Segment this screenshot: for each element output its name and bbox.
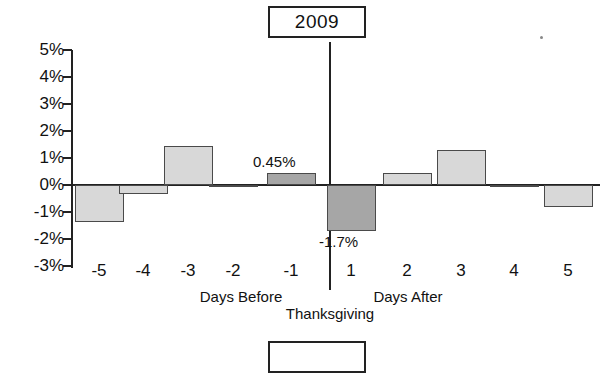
y-axis-tick xyxy=(63,49,72,51)
y-axis-tick-label: 0% xyxy=(8,176,64,193)
y-axis-tick-label: 3% xyxy=(8,95,64,112)
bar-4 xyxy=(490,185,539,187)
bar-1 xyxy=(327,185,376,231)
y-axis-tick-label: -3% xyxy=(8,257,64,274)
x-axis-tick-label-5: 5 xyxy=(548,262,588,280)
y-axis-tick-label: 5% xyxy=(8,41,64,58)
bar-3 xyxy=(437,150,486,185)
speck-artifact xyxy=(540,36,543,39)
x-axis-group-label-before: Days Before xyxy=(166,289,316,305)
bar-neg1 xyxy=(267,173,316,185)
y-axis-tick-label: -2% xyxy=(8,230,64,247)
y-axis-tick-label: 4% xyxy=(8,68,64,85)
x-axis-tick-label-neg2: -2 xyxy=(213,262,253,280)
bar-neg5 xyxy=(75,185,124,222)
bar-5 xyxy=(544,185,593,207)
x-axis-tick-label-3: 3 xyxy=(441,262,481,280)
center-divider-line xyxy=(329,42,331,290)
bar-value-label-neg1: 0.45% xyxy=(253,154,296,169)
bar-neg4 xyxy=(119,185,168,194)
y-axis-tick xyxy=(63,265,72,267)
next-chart-title-box xyxy=(268,341,366,373)
bar-2 xyxy=(383,173,432,185)
x-axis-tick-label-4: 4 xyxy=(494,262,534,280)
x-axis-tick-label-2: 2 xyxy=(387,262,427,280)
x-axis-group-label-after: Days After xyxy=(333,289,483,305)
y-axis-tick xyxy=(63,238,72,240)
y-axis-tick-label: -1% xyxy=(8,203,64,220)
x-axis-tick-label-neg5: -5 xyxy=(79,262,119,280)
x-axis-tick-label-neg1: -1 xyxy=(271,262,311,280)
chart-title: 2009 xyxy=(295,11,339,33)
y-axis-line xyxy=(71,50,73,268)
y-axis-tick xyxy=(63,76,72,78)
y-axis-tick xyxy=(63,103,72,105)
bar-value-label-1: -1.7% xyxy=(319,234,358,249)
y-axis-tick-label: 1% xyxy=(8,149,64,166)
chart-title-box: 2009 xyxy=(268,6,366,38)
bar-neg2 xyxy=(209,185,258,187)
y-axis-tick xyxy=(63,130,72,132)
x-axis-tick-label-neg3: -3 xyxy=(168,262,208,280)
x-axis-main-label: Thanksgiving xyxy=(230,306,430,322)
y-axis-tick-label: 2% xyxy=(8,122,64,139)
y-axis-tick xyxy=(63,211,72,213)
x-axis-tick-label-1: 1 xyxy=(331,262,371,280)
x-axis-tick-label-neg4: -4 xyxy=(123,262,163,280)
bar-neg3 xyxy=(164,146,213,185)
y-axis-tick xyxy=(63,157,72,159)
